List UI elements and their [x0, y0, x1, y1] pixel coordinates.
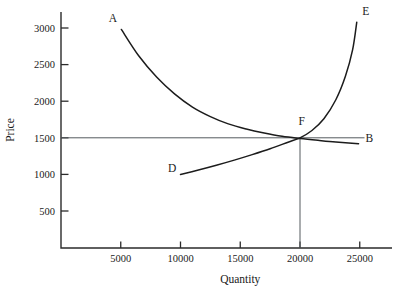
y-tick-label-3000: 3000 — [34, 23, 55, 34]
label-A: A — [109, 12, 118, 24]
economics-supply-demand-chart: 5001000150020002500300050001000015000200… — [0, 0, 399, 299]
guide-lines-group — [61, 138, 365, 248]
y-tick-label-2000: 2000 — [34, 96, 55, 107]
axes-group — [61, 12, 392, 248]
axis-lines — [61, 12, 392, 248]
y-tick-label-500: 500 — [39, 206, 55, 217]
label-B: B — [365, 132, 373, 144]
chart-canvas: 5001000150020002500300050001000015000200… — [0, 0, 399, 299]
x-tick-label-20000: 20000 — [287, 253, 313, 264]
supply-curve — [181, 22, 357, 174]
y-tick-label-1000: 1000 — [34, 169, 55, 180]
label-F: F — [299, 115, 305, 127]
x-axis-title: Quantity — [220, 273, 260, 286]
x-tick-label-25000: 25000 — [347, 253, 373, 264]
y-tick-label-2500: 2500 — [34, 59, 55, 70]
x-tick-label-10000: 10000 — [167, 253, 193, 264]
demand-curve — [121, 29, 358, 143]
curve-annotations-group: ABDEF — [109, 5, 374, 174]
label-D: D — [168, 162, 176, 174]
y-axis-title: Price — [4, 118, 16, 142]
tick-labels-group: 5001000150020002500300050001000015000200… — [34, 23, 373, 264]
x-tick-label-15000: 15000 — [227, 253, 253, 264]
curves-group — [121, 22, 358, 174]
label-E: E — [362, 5, 369, 17]
x-tick-label-5000: 5000 — [110, 253, 131, 264]
y-tick-label-1500: 1500 — [34, 133, 55, 144]
